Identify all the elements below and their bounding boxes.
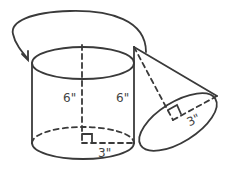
cylinder-top-ellipse bbox=[32, 47, 134, 79]
cylinder-cone-diagram: 6" 6" 3" 3" bbox=[0, 0, 230, 178]
cone-radius-label: 3" bbox=[185, 111, 203, 129]
curved-arrow-icon bbox=[13, 11, 146, 60]
cone bbox=[130, 47, 226, 162]
diagram-canvas: 6" 6" 3" 3" bbox=[0, 0, 230, 178]
right-angle-marker-icon bbox=[82, 134, 92, 143]
cylinder-height-label-center: 6" bbox=[63, 91, 76, 105]
cylinder-radius-label: 3" bbox=[98, 146, 111, 160]
cylinder-bottom-front bbox=[32, 143, 134, 159]
cylinder-height-label-side: 6" bbox=[116, 91, 129, 105]
cylinder-bottom-back bbox=[32, 127, 134, 143]
